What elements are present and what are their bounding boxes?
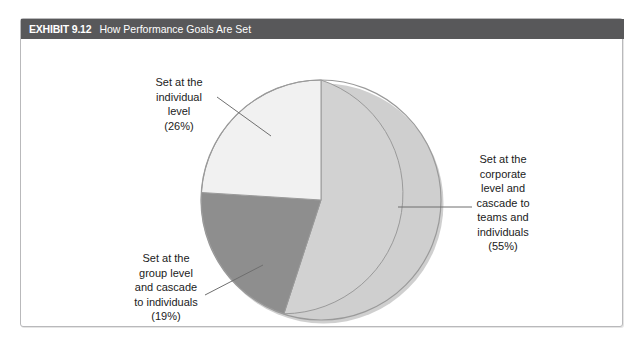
pie-label-corporate: Set at the corporate level and cascade t… [451, 152, 555, 254]
exhibit-title: How Performance Goals Are Set [99, 23, 251, 35]
exhibit-number-label: EXHIBIT 9.12 [29, 23, 91, 35]
pie-label-individual: Set at the individual level (26%) [129, 75, 229, 133]
exhibit-header-bar: EXHIBIT 9.12 How Performance Goals Are S… [21, 19, 624, 39]
pie-label-group: Set at the group level and cascade to in… [107, 251, 225, 324]
pie-chart-area: Set at the individual level (26%) Set at… [21, 39, 622, 326]
exhibit-frame: EXHIBIT 9.12 How Performance Goals Are S… [20, 18, 623, 327]
